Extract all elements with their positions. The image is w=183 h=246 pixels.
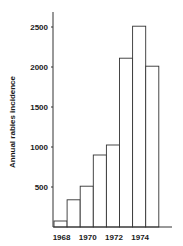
y-tick-label: 500 [35, 183, 49, 192]
bar-1970 [80, 186, 93, 227]
x-tick-label: 1970 [79, 233, 97, 242]
x-tick-label: 1968 [53, 233, 71, 242]
bar-1969 [67, 200, 80, 227]
bar-1973 [120, 58, 133, 227]
y-tick-label: 1500 [30, 103, 48, 112]
y-tick-label: 2500 [30, 23, 48, 32]
rabies-histogram: 5001000150020002500 1968197019721974 Ann… [0, 0, 183, 246]
bar-1968 [54, 221, 67, 227]
y-tick-label: 2000 [30, 63, 48, 72]
bars [54, 26, 159, 227]
x-tick-label: 1974 [131, 233, 149, 242]
y-axis-ticks: 5001000150020002500 [30, 23, 53, 192]
bar-1971 [93, 155, 106, 227]
bar-1974 [133, 26, 146, 227]
x-tick-label: 1972 [105, 233, 123, 242]
bar-1975 [146, 66, 159, 227]
y-axis-title: Annual rabies incidence [8, 75, 17, 168]
y-tick-label: 1000 [30, 143, 48, 152]
bar-1972 [106, 145, 119, 227]
x-axis-labels: 1968197019721974 [53, 233, 150, 242]
